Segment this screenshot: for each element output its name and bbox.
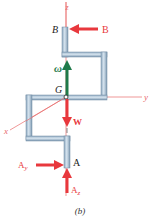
rod-segment-lower-horizontal — [26, 136, 70, 141]
angular-velocity-arrow — [62, 60, 72, 96]
y-axis-label: y — [143, 92, 148, 102]
x-axis-label: x — [3, 126, 8, 136]
figure-caption: (b) — [75, 206, 86, 216]
force-b-label: B — [102, 24, 109, 35]
weight-arrow — [62, 99, 72, 127]
force-ay-label: Ay — [18, 160, 29, 172]
rod-segment-right — [101, 52, 107, 98]
force-ay-arrow — [36, 160, 64, 170]
force-ay-label-sub: y — [24, 164, 29, 172]
omega-label: ω — [54, 62, 62, 74]
z-axis-label: z — [64, 3, 69, 12]
center-of-mass-point — [64, 95, 68, 99]
point-b-label: B — [52, 24, 58, 35]
force-b-arrow — [69, 24, 98, 34]
point-a-label: A — [73, 157, 81, 168]
rod-segment-upper-horizontal — [62, 52, 107, 57]
weight-label: W — [73, 117, 82, 127]
free-body-diagram: z y x B G A B W ω Ay Az (b) — [0, 0, 160, 221]
rod-segment-left — [26, 95, 32, 140]
force-az-label-sub: z — [77, 189, 81, 197]
point-g-label: G — [55, 84, 62, 95]
force-az-label: Az — [71, 185, 81, 197]
rod-segment-bottom — [64, 136, 70, 168]
